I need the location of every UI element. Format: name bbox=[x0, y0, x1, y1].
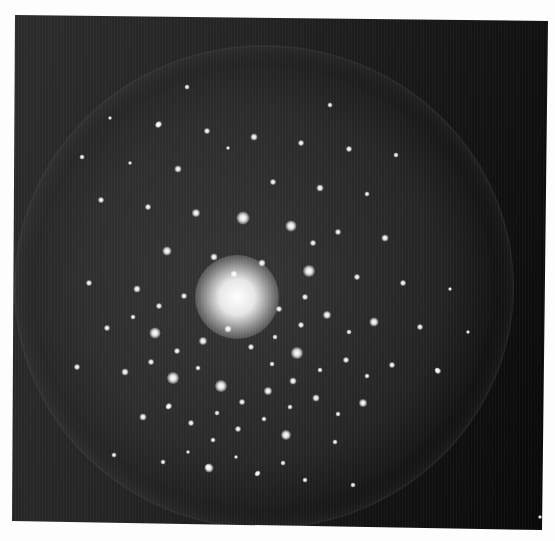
diffraction-photo bbox=[0, 0, 555, 541]
film-grain bbox=[0, 0, 555, 541]
page-background bbox=[0, 0, 555, 541]
